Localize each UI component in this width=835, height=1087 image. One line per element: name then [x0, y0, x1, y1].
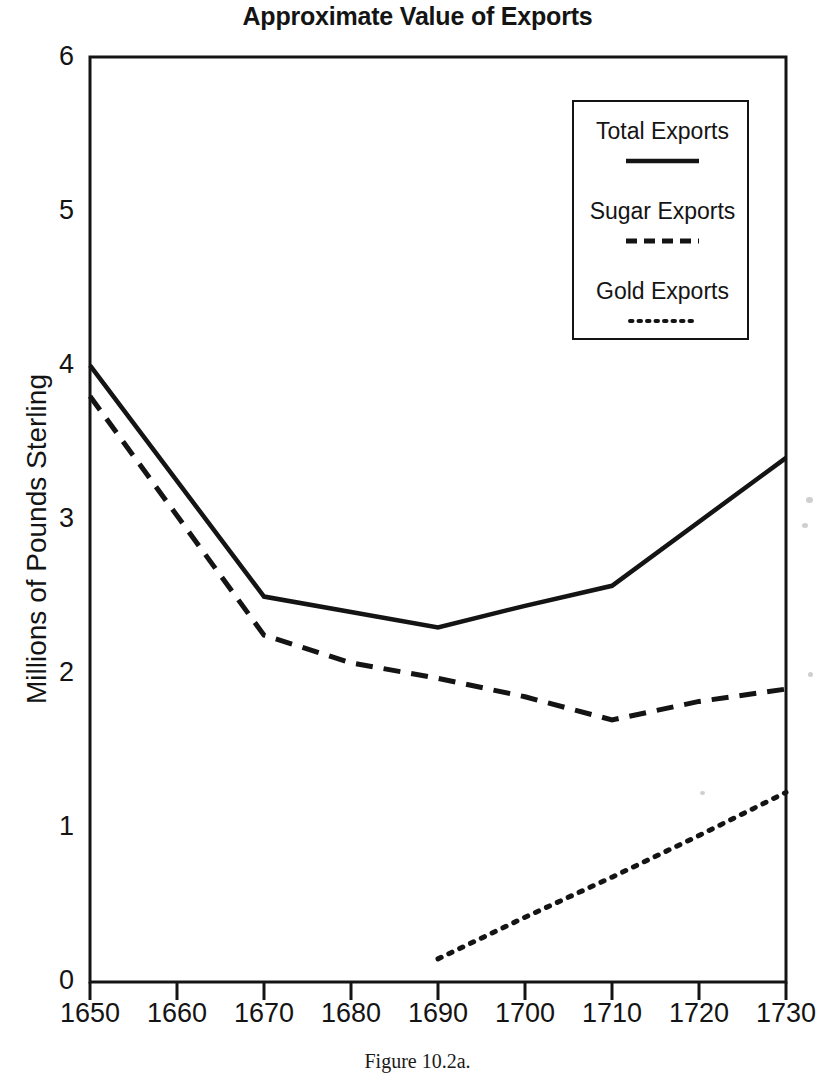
scan-speckle: [808, 672, 813, 677]
legend-label-gold-exports: Gold Exports: [574, 280, 751, 303]
legend-entry-sugar-exports: Sugar Exports: [574, 200, 751, 246]
figure-container: Approximate Value of Exports Millions of…: [0, 0, 835, 1087]
legend: Total Exports Sugar Exports Gold Exports: [572, 100, 749, 340]
legend-entry-gold-exports: Gold Exports: [574, 280, 751, 326]
legend-sample-dotted-icon: [574, 316, 751, 326]
legend-label-total-exports: Total Exports: [574, 120, 751, 143]
scan-speckle: [806, 497, 813, 503]
series-line-gold-exports: [438, 792, 786, 959]
series-line-sugar-exports: [90, 396, 786, 720]
scan-speckle: [802, 523, 808, 528]
legend-sample-solid-icon: [574, 156, 751, 166]
legend-label-sugar-exports: Sugar Exports: [574, 200, 751, 223]
series-line-total-exports: [90, 365, 786, 627]
legend-sample-dashed-icon: [574, 236, 751, 246]
legend-entry-total-exports: Total Exports: [574, 120, 751, 166]
figure-caption: Figure 10.2a.: [0, 1050, 835, 1073]
data-lines: [90, 365, 786, 959]
scan-speckle: [700, 791, 705, 795]
x-axis-ticks: [90, 982, 786, 1000]
